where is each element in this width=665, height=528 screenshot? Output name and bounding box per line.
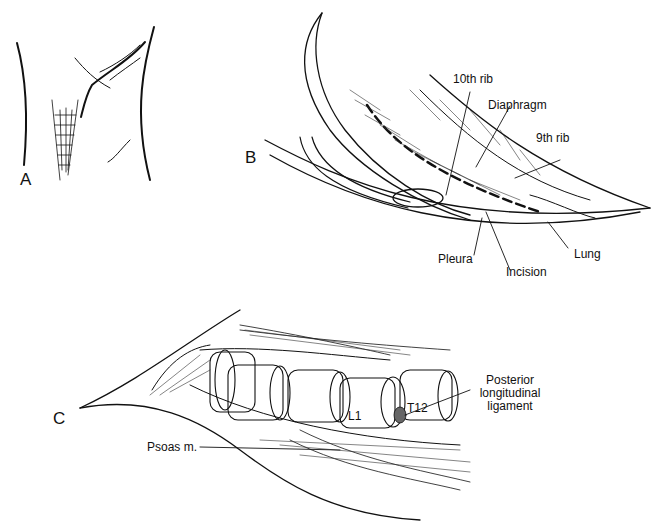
label-l1: L1 [348, 410, 361, 423]
label-posterior-longitudinal-ligament: Posterior longitudinal ligament [470, 374, 550, 413]
label-diaphragm: Diaphragm [488, 99, 547, 112]
label-incision: Incision [506, 266, 547, 279]
panel-label-c: C [53, 409, 65, 429]
label-pll-line-3: ligament [470, 400, 550, 413]
panel-label-b: B [245, 148, 256, 168]
anatomy-illustration [0, 0, 665, 528]
panel-label-a: A [20, 170, 31, 190]
panel-a-drawing [17, 27, 154, 180]
label-psoas: Psoas m. [147, 441, 197, 454]
label-t12: T12 [407, 402, 428, 415]
panel-c-drawing [80, 310, 470, 520]
label-10th-rib: 10th rib [453, 73, 493, 86]
label-9th-rib: 9th rib [536, 132, 569, 145]
label-lung: Lung [574, 248, 601, 261]
panel-b-drawing [265, 13, 650, 223]
label-pleura: Pleura [438, 253, 473, 266]
